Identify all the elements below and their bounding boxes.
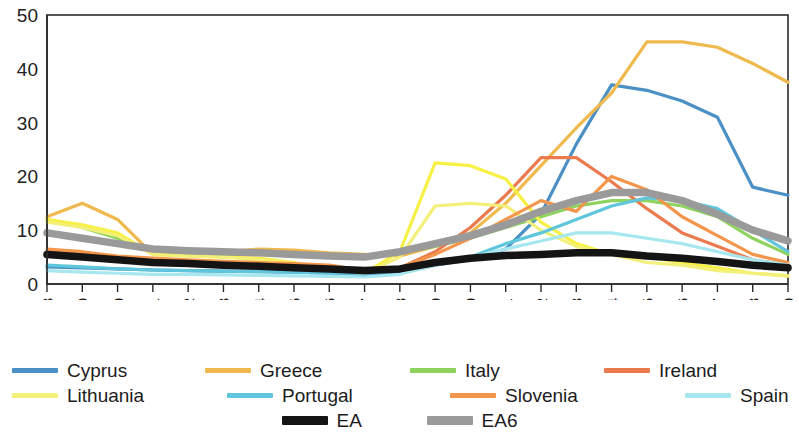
x-axis-tick-label: 1999 <box>74 298 91 300</box>
y-axis-tick-label: 50 <box>17 5 38 26</box>
chart-legend: CyprusGreeceItalyIrelandLatvia Lithuania… <box>0 358 799 441</box>
x-axis-tick-label: 2019 <box>780 298 797 300</box>
legend-item-slovenia[interactable]: Slovenia <box>450 386 633 405</box>
legend-swatch-lithuania <box>12 393 58 398</box>
legend-item-spain[interactable]: Spain <box>685 386 789 405</box>
x-axis-tick-label: 2012 <box>533 298 550 300</box>
legend-label-cyprus: Cyprus <box>67 361 175 380</box>
legend-swatch-ea6 <box>427 416 473 425</box>
legend-label-spain: Spain <box>740 386 789 405</box>
series-line-greece <box>47 42 788 256</box>
legend-label-ireland: Ireland <box>659 361 769 380</box>
legend-item-italy[interactable]: Italy <box>410 361 560 380</box>
legend-swatch-cyprus <box>12 368 58 373</box>
legend-item-portugal[interactable]: Portugal <box>227 386 418 405</box>
x-axis-tick-label: 2000 <box>110 298 127 300</box>
series-line-ea6 <box>47 193 788 258</box>
x-axis-tick-label: 2003 <box>215 298 232 300</box>
plot-area: 0102030405019981999200020012002200320042… <box>0 0 799 300</box>
legend-item-lithuania[interactable]: Lithuania <box>12 386 215 405</box>
x-axis-tick-label: 2013 <box>568 298 585 300</box>
x-axis-tick-label: 2005 <box>286 298 303 300</box>
legend-item-greece[interactable]: Greece <box>205 361 368 380</box>
y-axis-tick-label: 10 <box>17 220 38 241</box>
x-axis-tick-label: 2014 <box>604 298 621 300</box>
legend-swatch-italy <box>410 368 456 373</box>
x-axis-tick-label: 1998 <box>39 298 56 300</box>
legend-row-3: EAEA6 <box>0 408 799 433</box>
x-axis-tick-label: 2004 <box>251 298 268 300</box>
x-axis-tick-label: 2015 <box>639 298 656 300</box>
legend-swatch-slovenia <box>450 393 496 398</box>
legend-swatch-greece <box>205 368 251 373</box>
x-axis-tick-label: 2011 <box>498 298 515 300</box>
legend-item-ireland[interactable]: Ireland <box>604 361 769 380</box>
x-axis-tick-label: 2017 <box>709 298 726 300</box>
legend-swatch-ireland <box>604 368 650 373</box>
legend-label-portugal: Portugal <box>282 386 418 405</box>
legend-label-lithuania: Lithuania <box>67 386 215 405</box>
legend-swatch-ea <box>282 416 328 425</box>
x-axis-tick-label: 2006 <box>321 298 338 300</box>
y-axis-tick-label: 30 <box>17 113 38 134</box>
x-axis-tick-label: 2008 <box>392 298 409 300</box>
x-axis-tick-label: 2001 <box>145 298 162 300</box>
legend-item-cyprus[interactable]: Cyprus <box>12 361 175 380</box>
line-chart: 0102030405019981999200020012002200320042… <box>0 0 799 300</box>
x-axis-tick-label: 2016 <box>674 298 691 300</box>
legend-label-greece: Greece <box>260 361 368 380</box>
x-axis-tick-label: 2007 <box>357 298 374 300</box>
legend-label-ea6: EA6 <box>482 411 518 430</box>
legend-label-italy: Italy <box>465 361 560 380</box>
x-axis-tick-label: 2018 <box>745 298 762 300</box>
chart-figure: 0102030405019981999200020012002200320042… <box>0 0 799 441</box>
y-axis-tick-label: 20 <box>17 166 38 187</box>
x-axis-tick-label: 2002 <box>180 298 197 300</box>
legend-swatch-portugal <box>227 393 273 398</box>
legend-row-2: LithuaniaPortugalSloveniaSpain <box>0 383 799 408</box>
legend-item-ea[interactable]: EA <box>282 411 397 430</box>
y-axis-tick-label: 40 <box>17 59 38 80</box>
legend-label-ea: EA <box>337 411 397 430</box>
y-axis-tick-label: 0 <box>27 274 38 295</box>
legend-row-1: CyprusGreeceItalyIrelandLatvia <box>0 358 799 383</box>
legend-swatch-spain <box>685 393 731 398</box>
legend-label-slovenia: Slovenia <box>505 386 633 405</box>
x-axis-tick-label: 2010 <box>462 298 479 300</box>
x-axis-tick-label: 2009 <box>427 298 444 300</box>
legend-item-ea6[interactable]: EA6 <box>427 411 518 430</box>
